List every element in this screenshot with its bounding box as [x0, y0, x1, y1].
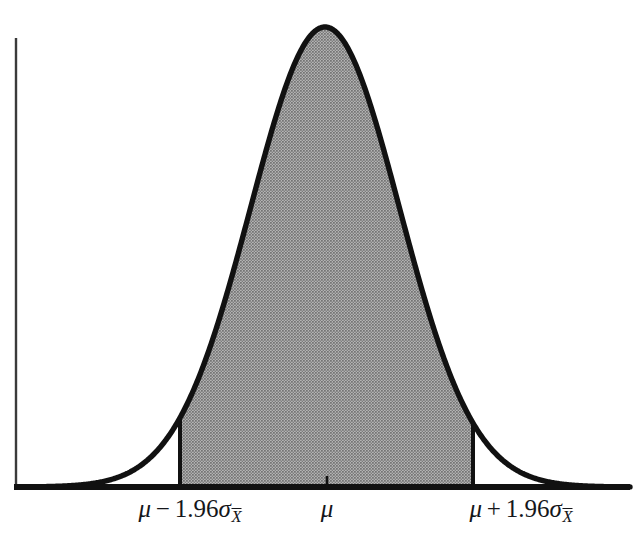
shaded-confidence-area [180, 27, 473, 487]
shaded-area-path [180, 27, 473, 487]
normal-distribution-figure: μ−1.96σX μ μ+1.96σX [0, 0, 644, 535]
distribution-chart-canvas [0, 0, 644, 535]
